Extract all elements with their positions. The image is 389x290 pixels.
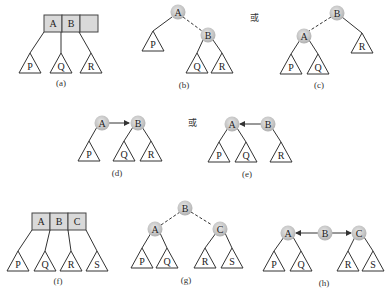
diagram-canvas: A B P Q R (a) A B P Q R (b) 或 [0,0,389,290]
caption-c: (c) [314,80,324,90]
svg-text:A: A [174,7,182,18]
svg-text:B: B [205,30,212,41]
panel-b: A B P Q R (b) [142,5,233,91]
svg-text:A: A [228,119,236,130]
svg-text:Q: Q [297,259,305,270]
panel-d: A B P Q R (d) [78,116,162,179]
svg-text:R: R [68,259,75,270]
svg-text:P: P [271,259,277,270]
svg-text:A: A [151,224,159,235]
svg-text:Q: Q [41,259,49,270]
svg-text:S: S [94,259,100,270]
svg-text:Q: Q [193,61,201,72]
svg-text:B: B [56,216,63,227]
svg-text:C: C [356,228,363,239]
svg-text:A: A [37,216,45,227]
or-label-2: 或 [188,117,197,128]
svg-text:B: B [334,8,341,19]
svg-text:R: R [359,41,366,52]
svg-text:A: A [300,31,308,42]
svg-text:R: R [148,149,155,160]
svg-text:Q: Q [242,150,250,161]
svg-text:R: R [88,61,95,72]
caption-b: (b) [179,80,190,90]
svg-text:S: S [370,259,376,270]
key-cell-empty [80,15,98,32]
panel-a: A B P Q R (a) [19,15,102,88]
svg-text:C: C [217,224,224,235]
svg-text:Q: Q [57,61,65,72]
svg-text:P: P [139,256,145,267]
svg-text:P: P [150,39,156,50]
svg-text:P: P [27,61,33,72]
or-label-1: 或 [250,12,259,23]
panel-c: B A P Q R (c) [280,6,373,91]
svg-text:P: P [15,259,21,270]
panel-e: A B P Q R (e) [208,117,292,180]
caption-d: (d) [112,168,123,178]
svg-text:S: S [229,256,235,267]
panel-h: A B C P Q R S (h) [263,226,384,289]
svg-text:B: B [322,228,329,239]
svg-text:R: R [219,61,226,72]
svg-text:Q: Q [163,256,171,267]
svg-text:A: A [284,228,292,239]
caption-h: (h) [319,278,330,288]
svg-text:Q: Q [120,149,128,160]
panel-f: A B C P Q R S (f) [7,213,108,286]
svg-text:P: P [86,149,92,160]
svg-text:B: B [265,119,272,130]
caption-g: (g) [181,275,192,285]
svg-text:R: R [278,150,285,161]
svg-text:B: B [182,203,189,214]
svg-text:C: C [74,216,81,227]
svg-text:B: B [135,118,142,129]
caption-e: (e) [242,169,252,179]
svg-text:P: P [216,150,222,161]
key-b: B [68,18,75,29]
svg-text:A: A [98,118,106,129]
svg-text:R: R [202,256,209,267]
panel-g: B A C P Q R S (g) [131,201,243,286]
svg-text:Q: Q [314,62,322,73]
caption-a: (a) [56,78,66,88]
caption-f: (f) [54,276,63,286]
svg-text:R: R [345,259,352,270]
key-a: A [49,18,57,29]
svg-text:P: P [288,62,294,73]
